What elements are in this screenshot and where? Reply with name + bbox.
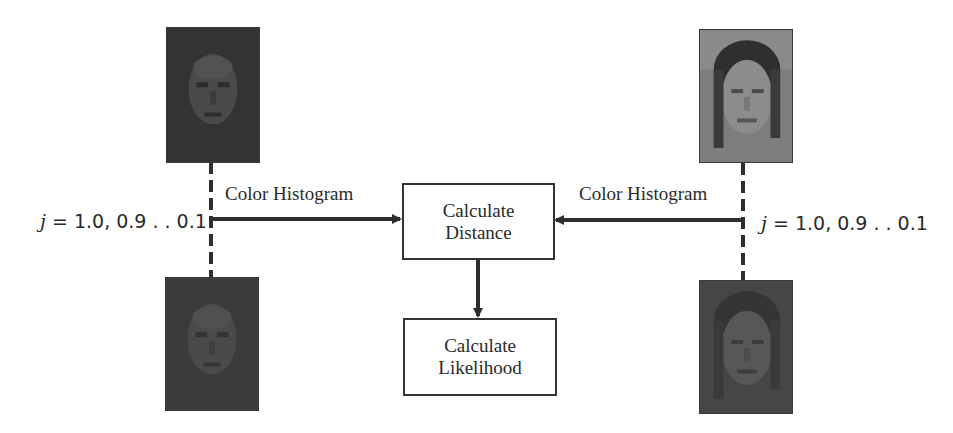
face-icon [166,278,258,410]
calculate-likelihood-box: Calculate Likelihood [403,318,557,396]
right-j-parameter: j = 1.0, 0.9 . . 0.1 [761,212,928,234]
face-icon [700,281,792,413]
left-bottom-face-image [165,277,259,411]
calculate-distance-box: Calculate Distance [402,183,555,260]
face-icon [700,30,792,162]
parameter-values: = 1.0, 0.9 . . 0.1 [52,210,207,232]
right-top-face-image [699,29,793,163]
left-j-parameter: j = 1.0, 0.9 . . 0.1 [40,210,207,232]
parameter-values: = 1.0, 0.9 . . 0.1 [773,212,928,234]
face-icon [167,28,259,162]
parameter-variable: j [761,212,767,234]
box-line-1: Calculate [444,335,516,357]
left-top-face-image [166,27,260,163]
parameter-variable: j [40,210,46,232]
right-bottom-face-image [699,280,793,414]
box-line-2: Distance [445,222,511,244]
right-color-histogram-label: Color Histogram [579,183,707,205]
box-line-1: Calculate [443,200,515,222]
left-color-histogram-label: Color Histogram [225,183,353,205]
box-line-2: Likelihood [438,357,521,379]
